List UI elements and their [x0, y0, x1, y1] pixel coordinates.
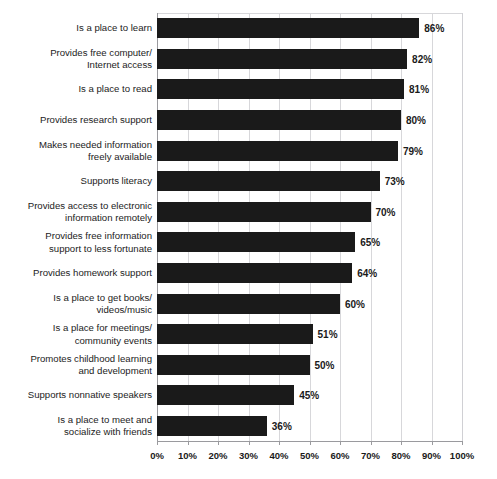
category-label: Provides free information support to les… [0, 230, 152, 254]
x-tick-10 [188, 441, 189, 445]
bar-value-label: 86% [424, 23, 444, 34]
x-tick-40 [279, 441, 280, 445]
bar-value-label: 60% [345, 298, 365, 309]
bar-value-label: 73% [385, 176, 405, 187]
bar-value-label: 82% [412, 53, 432, 64]
x-tick-label: 20% [208, 450, 227, 461]
x-tick-label: 10% [178, 450, 197, 461]
x-tick-60 [340, 441, 341, 445]
category-label: Is a place to get books/ videos/music [0, 291, 152, 315]
bar-track [157, 324, 462, 344]
bar [157, 232, 355, 252]
bar [157, 294, 340, 314]
bar-track [157, 355, 462, 375]
bar-track [157, 202, 462, 222]
bar-value-label: 79% [403, 145, 423, 156]
x-tick-70 [371, 441, 372, 445]
category-label: Makes needed information freely availabl… [0, 138, 152, 162]
bar-track [157, 171, 462, 191]
bar-value-label: 50% [315, 359, 335, 370]
x-tick-label: 0% [150, 450, 164, 461]
bar-value-label: 51% [318, 329, 338, 340]
bar [157, 416, 267, 436]
bar-row: Provides free computer/ Internet access8… [0, 44, 497, 75]
x-tick-80 [401, 441, 402, 445]
horizontal-bar-chart: Is a place to learn86%Provides free comp… [0, 0, 497, 479]
bar [157, 385, 294, 405]
bar [157, 141, 398, 161]
x-tick-label: 30% [239, 450, 258, 461]
category-label: Is a place to meet and socialize with fr… [0, 414, 152, 438]
bar [157, 202, 371, 222]
chart-title [0, 0, 497, 4]
x-tick-label: 40% [269, 450, 288, 461]
category-label: Provides homework support [0, 267, 152, 279]
category-label: Is a place for meetings/ community event… [0, 322, 152, 346]
bar-row: Promotes childhood learning and developm… [0, 350, 497, 381]
bar-row: Provides research support80% [0, 105, 497, 136]
bar [157, 79, 404, 99]
bar-row: Provides access to electronic informatio… [0, 197, 497, 228]
bar-row: Is a place to learn86% [0, 13, 497, 44]
category-label: Is a place to learn [0, 22, 152, 34]
category-label: Is a place to read [0, 83, 152, 95]
x-tick-100 [462, 441, 463, 445]
bar-track [157, 232, 462, 252]
bar-value-label: 65% [360, 237, 380, 248]
bar [157, 324, 313, 344]
x-tick-label: 90% [422, 450, 441, 461]
x-tick-label: 60% [330, 450, 349, 461]
category-label: Provides access to electronic informatio… [0, 200, 152, 224]
bar-row: Supports nonnative speakers45% [0, 380, 497, 411]
bar-value-label: 81% [409, 84, 429, 95]
bar-track [157, 18, 462, 38]
bar-row: Makes needed information freely availabl… [0, 135, 497, 166]
bar-value-label: 45% [299, 390, 319, 401]
bar-row: Supports literacy73% [0, 166, 497, 197]
x-tick-label: 70% [361, 450, 380, 461]
x-tick-30 [249, 441, 250, 445]
x-tick-90 [432, 441, 433, 445]
bar-row: Is a place for meetings/ community event… [0, 319, 497, 350]
bar-track [157, 263, 462, 283]
category-label: Provides research support [0, 114, 152, 126]
x-tick-0 [157, 441, 158, 445]
x-tick-label: 50% [300, 450, 319, 461]
bar [157, 18, 419, 38]
bar-track [157, 416, 462, 436]
bar-track [157, 294, 462, 314]
x-tick-label: 80% [391, 450, 410, 461]
bar-value-label: 36% [272, 421, 292, 432]
bar-value-label: 80% [406, 115, 426, 126]
bar [157, 263, 352, 283]
bar [157, 355, 310, 375]
bar [157, 49, 407, 69]
bar-row: Is a place to read81% [0, 74, 497, 105]
bar-value-label: 64% [357, 268, 377, 279]
category-label: Promotes childhood learning and developm… [0, 353, 152, 377]
bar [157, 110, 401, 130]
bar-value-label: 70% [376, 206, 396, 217]
category-label: Supports nonnative speakers [0, 389, 152, 401]
bar-row: Is a place to meet and socialize with fr… [0, 411, 497, 442]
category-label: Supports literacy [0, 175, 152, 187]
bar [157, 171, 380, 191]
bar-row: Provides free information support to les… [0, 227, 497, 258]
bar-row: Provides homework support64% [0, 258, 497, 289]
x-tick-50 [310, 441, 311, 445]
x-tick-label: 100% [450, 450, 474, 461]
category-label: Provides free computer/ Internet access [0, 47, 152, 71]
bar-row: Is a place to get books/ videos/music60% [0, 288, 497, 319]
x-tick-20 [218, 441, 219, 445]
